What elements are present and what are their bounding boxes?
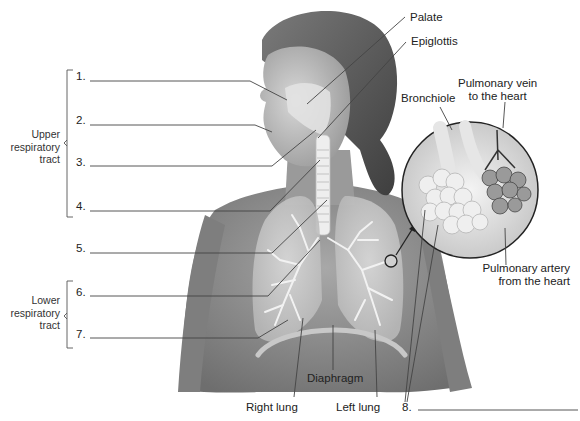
blank-2-number: 2. bbox=[76, 114, 86, 127]
blank-8-number: 8. bbox=[402, 401, 412, 414]
respiratory-illustration bbox=[0, 0, 580, 421]
label-bronchiole: Bronchiole bbox=[401, 92, 455, 105]
blank-6-number: 6. bbox=[76, 286, 86, 299]
group-brackets bbox=[64, 70, 73, 348]
label-left-lung: Left lung bbox=[336, 401, 380, 414]
alveoli-marker bbox=[385, 255, 397, 267]
blank-4-number: 4. bbox=[76, 200, 86, 213]
label-diaphragm: Diaphragm bbox=[307, 372, 363, 385]
blank-1-number: 1. bbox=[76, 70, 86, 83]
label-pulmonary-vein: Pulmonary vein to the heart bbox=[458, 77, 537, 103]
blank-7-number: 7. bbox=[76, 328, 86, 341]
label-epiglottis: Epiglottis bbox=[411, 35, 458, 48]
blank-3-number: 3. bbox=[76, 156, 86, 169]
blank-5-number: 5. bbox=[76, 242, 86, 255]
group-label-lower-respiratory-tract: Lower respiratory tract bbox=[0, 294, 60, 332]
label-palate: Palate bbox=[410, 11, 443, 24]
label-right-lung: Right lung bbox=[246, 401, 298, 414]
group-label-upper-respiratory-tract: Upper respiratory tract bbox=[0, 128, 60, 166]
label-pulmonary-artery: Pulmonary artery from the heart bbox=[460, 262, 570, 288]
